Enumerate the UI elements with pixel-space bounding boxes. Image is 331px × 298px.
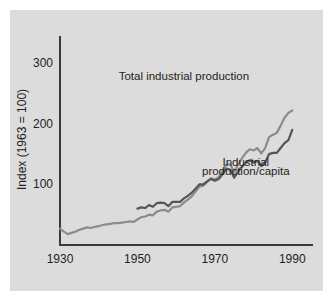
chart-annotations: Total industrial productionIndustrialpro…	[119, 70, 291, 177]
y-tick-label: 100	[33, 177, 53, 191]
x-tick-label: 1930	[47, 252, 74, 266]
chart-plot-area: 100200300 1930195019701990 Index (1963 =…	[0, 0, 331, 298]
y-tick-label: 200	[33, 117, 53, 131]
x-tick-label: 1990	[279, 252, 306, 266]
series-annotation-label: Total industrial production	[119, 70, 249, 82]
y-tick-label: 300	[33, 56, 53, 70]
series-annotation-label: production/capita	[202, 165, 290, 177]
x-axis-tick-labels: 1930195019701990	[47, 252, 306, 266]
x-tick-label: 1970	[201, 252, 228, 266]
y-axis-title: Index (1963 = 100)	[15, 89, 29, 190]
y-axis-tick-labels: 100200300	[33, 56, 53, 191]
x-tick-label: 1950	[124, 252, 151, 266]
chart-figure: 100200300 1930195019701990 Index (1963 =…	[0, 0, 331, 298]
